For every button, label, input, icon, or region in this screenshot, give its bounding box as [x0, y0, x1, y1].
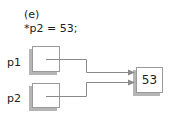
arrow-p1 [46, 60, 128, 73]
arrow-p2 [46, 83, 128, 97]
arrowhead-p2-icon [128, 80, 135, 86]
arrowhead-p1-icon [128, 70, 135, 76]
pointer-arrows [0, 0, 171, 120]
